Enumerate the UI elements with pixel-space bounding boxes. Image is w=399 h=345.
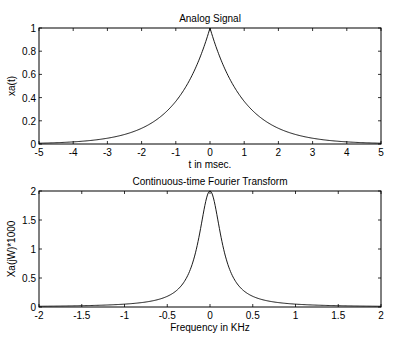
y-axis-label: Xa(jW)*1000 [6,220,17,277]
y-tick-label: 0.5 [22,273,36,284]
x-tick-label: 4 [344,147,350,158]
axes-box [39,191,381,307]
x-tick-label: 1.5 [331,310,345,321]
y-axis-label: xa(t) [6,76,17,96]
chart-title: Analog Signal [179,13,241,24]
x-tick-label: 0 [207,147,213,158]
x-axis-label: Frequency in KHz [170,322,249,333]
y-tick-label: 0 [30,302,36,313]
x-tick-label: -0.5 [159,310,177,321]
chart-title: Continuous-time Fourier Transform [132,176,287,187]
x-tick-label: 5 [378,147,384,158]
data-line [39,191,381,306]
y-tick-label: 1.5 [22,215,36,226]
y-tick-label: 0.6 [22,69,36,80]
x-tick-label: 3 [310,147,316,158]
y-tick-label: 0 [30,139,36,150]
x-tick-label: -2 [137,147,146,158]
y-tick-label: 1 [30,23,36,34]
x-tick-label: 1 [241,147,247,158]
x-tick-label: 2 [378,310,384,321]
fourier-transform-axes: -2-1.5-1-0.500.511.5200.511.52Continuous… [6,176,384,333]
x-tick-label: -3 [103,147,112,158]
x-tick-label: 1 [293,310,299,321]
y-tick-label: 0.4 [22,93,36,104]
x-axis-label: t in msec. [189,159,232,170]
x-tick-label: -1 [120,310,129,321]
analog-signal-axes: -5-4-3-2-101234500.20.40.60.81Analog Sig… [6,13,384,170]
y-tick-label: 0.8 [22,46,36,57]
axes-box [39,28,381,144]
data-line [39,28,381,143]
x-tick-label: 2 [276,147,282,158]
x-tick-label: 0 [207,310,213,321]
x-tick-label: -4 [69,147,78,158]
y-tick-label: 2 [30,186,36,197]
y-tick-label: 1 [30,244,36,255]
x-tick-label: 0.5 [246,310,260,321]
x-tick-label: -1.5 [73,310,91,321]
figure: -5-4-3-2-101234500.20.40.60.81Analog Sig… [0,0,399,345]
x-tick-label: -1 [171,147,180,158]
y-tick-label: 0.2 [22,116,36,127]
